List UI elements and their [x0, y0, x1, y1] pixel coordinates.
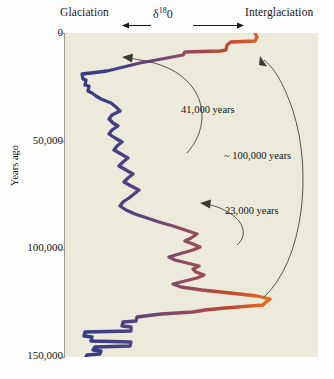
y-tick-label-100000: 100,000: [7, 241, 63, 253]
annotation-arc-100000: [259, 56, 303, 297]
annotation-label-100000-years: ~ 100,000 years: [224, 150, 291, 161]
d18o-curve-svg: [65, 33, 318, 357]
header-label-glaciation: Glaciation: [60, 6, 109, 18]
delta-superscript: 18: [159, 6, 167, 15]
arrow-left-icon: [122, 16, 152, 25]
y-tick-label-150000: 150,000: [7, 349, 63, 361]
arrow-right-icon: [193, 16, 244, 25]
axis-symbol-delta18o: δ180: [153, 6, 173, 22]
annotation-label-23000-years: 23,000 years: [225, 205, 279, 216]
d18o-curve-path: [82, 33, 270, 357]
plot-area: [65, 33, 318, 357]
y-axis-ticks: 0 50,000 100,000 150,000: [0, 0, 63, 379]
y-tick-label-50000: 50,000: [7, 134, 63, 146]
y-tick-label-0: 0: [7, 26, 63, 38]
header-label-interglaciation: Interglaciation: [245, 6, 313, 18]
delta-tail: 0: [167, 7, 173, 21]
figure-root: Glaciation δ180 Interglaciation Years ag…: [0, 0, 334, 379]
annotation-label-41000-years: 41,000 years: [181, 104, 235, 115]
y-tickmark-150000: [59, 357, 65, 358]
